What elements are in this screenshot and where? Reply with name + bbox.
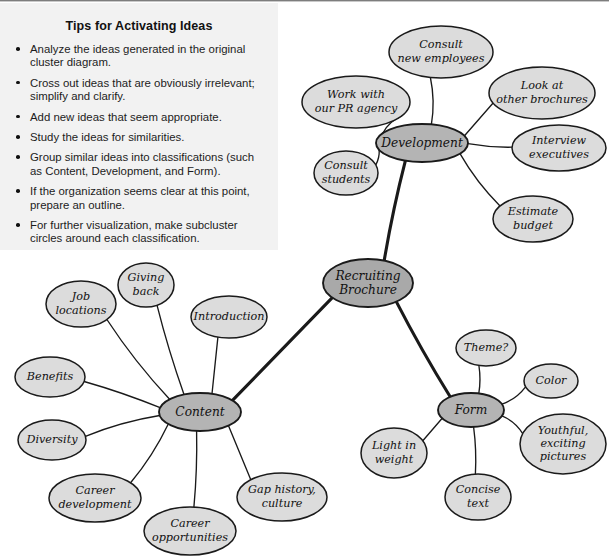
- node-label: Consultstudents: [322, 159, 371, 185]
- diagram-node-development[interactable]: Development: [376, 124, 468, 162]
- diagram-node-form[interactable]: Form: [438, 393, 504, 427]
- diagram-node-c8[interactable]: Gap history,culture: [237, 473, 327, 521]
- node-label: Givingback: [128, 271, 165, 297]
- diagram-page: Tips for Activating Ideas Analyze the id…: [0, 0, 609, 557]
- diagram-edge: [85, 416, 159, 437]
- diagram-node-f4[interactable]: Concisetext: [445, 474, 511, 520]
- diagram-node-center[interactable]: RecruitingBrochure: [323, 259, 413, 307]
- node-label: Benefits: [26, 370, 74, 383]
- diagram-edge: [502, 416, 523, 434]
- diagram-edge: [107, 320, 170, 400]
- diagram-node-c4[interactable]: Benefits: [15, 357, 85, 397]
- cluster-diagram: RecruitingBrochureDevelopmentContentForm…: [0, 0, 609, 557]
- diagram-node-d1[interactable]: Consultnew employees: [389, 26, 493, 78]
- diagram-edge: [131, 424, 169, 483]
- diagram-edge: [460, 154, 500, 206]
- diagram-node-c3[interactable]: Introduction: [191, 296, 267, 338]
- diagram-node-d4[interactable]: Look atother brochures: [489, 67, 595, 119]
- diagram-node-d5[interactable]: Interviewexecutives: [512, 125, 606, 171]
- diagram-edge: [229, 426, 251, 480]
- diagram-edge: [194, 431, 197, 507]
- diagram-node-d3[interactable]: Consultstudents: [314, 151, 378, 195]
- diagram-edge: [384, 161, 405, 261]
- diagram-edge: [474, 427, 476, 474]
- node-label: RecruitingBrochure: [334, 268, 400, 296]
- diagram-edge: [212, 337, 218, 394]
- node-label: Content: [175, 405, 224, 419]
- node-label: Theme?: [464, 341, 510, 354]
- diagram-node-c1[interactable]: Joblocations: [46, 281, 116, 327]
- node-label: Introduction: [193, 310, 265, 323]
- node-label: Form: [454, 403, 488, 417]
- diagram-node-d6[interactable]: Estimatebudget: [493, 196, 573, 242]
- diagram-edge: [84, 382, 160, 408]
- node-label: Diversity: [26, 433, 79, 446]
- diagram-node-content[interactable]: Content: [159, 393, 241, 431]
- diagram-node-c2[interactable]: Givingback: [118, 263, 174, 307]
- diagram-edge: [465, 103, 494, 136]
- diagram-node-f2[interactable]: Color: [524, 364, 578, 398]
- node-label: Youthful,excitingpictures: [538, 424, 589, 464]
- diagram-node-c5[interactable]: Diversity: [18, 420, 86, 460]
- diagram-edge: [479, 366, 480, 394]
- node-label: Estimatebudget: [507, 205, 559, 231]
- diagram-node-layer: RecruitingBrochureDevelopmentContentForm…: [15, 26, 606, 555]
- diagram-edge: [157, 305, 184, 394]
- node-label: Interviewexecutives: [529, 134, 589, 160]
- diagram-node-f3[interactable]: Youthful,excitingpictures: [520, 414, 606, 474]
- node-label: Light inweight: [371, 439, 416, 465]
- diagram-edge: [396, 302, 450, 397]
- diagram-node-d2[interactable]: Work withour PR agency: [302, 76, 410, 128]
- diagram-edge: [423, 418, 442, 441]
- node-label: Development: [380, 136, 463, 150]
- diagram-node-c6[interactable]: Careerdevelopment: [49, 474, 141, 522]
- diagram-edge: [502, 387, 526, 404]
- diagram-node-f5[interactable]: Light inweight: [361, 428, 427, 478]
- diagram-edge: [468, 144, 512, 148]
- node-label: Color: [536, 374, 568, 387]
- diagram-node-c7[interactable]: Careeropportunities: [144, 507, 236, 555]
- diagram-node-f1[interactable]: Theme?: [456, 330, 516, 366]
- diagram-edge: [376, 150, 379, 165]
- diagram-edge: [430, 78, 433, 125]
